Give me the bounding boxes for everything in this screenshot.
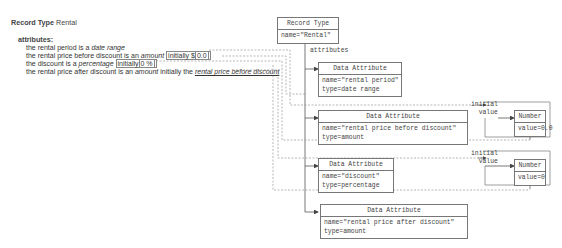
- initial-value-label: initialvalue: [471, 150, 498, 165]
- label-line: value: [471, 158, 498, 166]
- box-header: Data Attribute: [321, 205, 467, 217]
- number-box-discount[interactable]: Number value=0: [514, 159, 546, 186]
- box-header: Data Attribute: [319, 159, 393, 171]
- label-line: initial: [471, 150, 498, 158]
- label-line: value: [471, 109, 498, 117]
- attributes-label: attributes: [310, 47, 348, 55]
- attr-type: type=amount: [324, 228, 464, 237]
- box-header: Data Attribute: [319, 63, 401, 75]
- data-attribute-rental-period[interactable]: Data Attribute name="rental period"type=…: [318, 62, 402, 97]
- attr-name: name="rental period": [322, 77, 398, 86]
- data-attribute-price-before[interactable]: Data Attribute name="rental price before…: [318, 110, 468, 145]
- attr-name: name="rental price before discount": [322, 125, 464, 134]
- box-header: Record Type: [278, 18, 338, 30]
- record-type-box[interactable]: Record Type name="Rental": [277, 17, 339, 44]
- data-attribute-price-after[interactable]: Data Attribute name="rental price after …: [320, 204, 468, 239]
- label-line: initial: [471, 101, 498, 109]
- attr-name: name="rental price after discount": [324, 219, 464, 228]
- box-header: Number: [515, 160, 545, 172]
- box-body: name="rental price before discount"type=…: [319, 123, 467, 144]
- attr-type: type=percentage: [322, 182, 390, 191]
- box-header: Number: [515, 111, 545, 123]
- box-body: name="rental period"type=date range: [319, 75, 401, 96]
- number-box-price[interactable]: Number value=0.0: [514, 110, 546, 137]
- box-body: name="Rental": [278, 30, 338, 43]
- attr-type: type=date range: [322, 86, 398, 95]
- box-body: name="discount"type=percentage: [319, 171, 393, 192]
- box-header: Data Attribute: [319, 111, 467, 123]
- attr-type: type=amount: [322, 134, 464, 143]
- box-body: value=0.0: [515, 123, 545, 136]
- attr-name: name="discount": [322, 173, 390, 182]
- data-attribute-discount[interactable]: Data Attribute name="discount"type=perce…: [318, 158, 394, 193]
- box-body: value=0: [515, 172, 545, 185]
- initial-value-label: initialvalue: [471, 101, 498, 116]
- box-body: name="rental price after discount"type=a…: [321, 217, 467, 238]
